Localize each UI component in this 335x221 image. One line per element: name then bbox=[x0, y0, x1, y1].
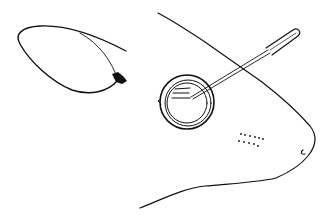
suture-loop-icon bbox=[18, 26, 127, 93]
eye-icon bbox=[158, 75, 214, 129]
whisker-pad-icon bbox=[238, 133, 264, 147]
needle-icon bbox=[191, 29, 300, 99]
figure-canvas: Line drawing of a mouse head in profile … bbox=[0, 0, 335, 221]
line-drawing bbox=[0, 0, 335, 221]
